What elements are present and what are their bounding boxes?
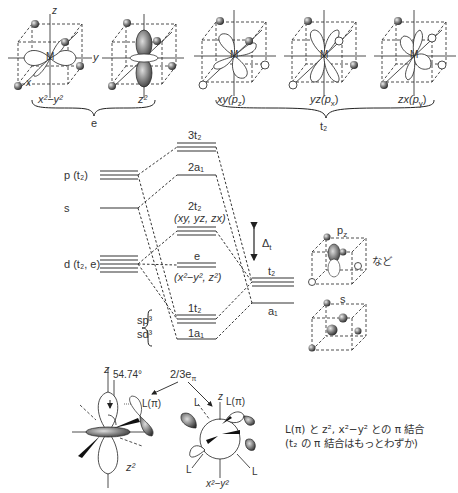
- orbital-label-yz: yz(px): [310, 94, 338, 108]
- ligand-label-bottom-right: L: [252, 467, 258, 477]
- orbital-zx-text: zx(p: [398, 93, 419, 105]
- orbital-label-x2-y2: x²−y²: [38, 94, 63, 105]
- orbital-label-z2: z²: [138, 94, 147, 105]
- bottom-orbital-z2: z²: [126, 462, 135, 473]
- note-line-2: (t₂ の π 結合はもっとわずか): [285, 438, 418, 449]
- level-label-3t2: 3t₂: [188, 130, 201, 141]
- x2-y2-pi-diagram: [190, 402, 250, 478]
- level-label-e: e: [194, 251, 200, 262]
- hybrid-label-sp3: sp³: [137, 315, 152, 326]
- diagram-artwork: [0, 0, 458, 493]
- energy-label: 2/3eπ: [170, 369, 196, 382]
- bottom-z-label-left: z: [104, 364, 110, 375]
- ligand-pi-label-right: L(π): [226, 397, 245, 407]
- ligand-pz-label: pz: [337, 225, 347, 239]
- level-label-1a1: 1a₁: [188, 328, 204, 339]
- note-line-1: L(π) と z², x²−y² との π 結合: [285, 424, 424, 435]
- level-label-ligand-t2: t₂: [268, 266, 275, 277]
- group-label-t2: t₂: [320, 121, 327, 132]
- metal-label-zx: M: [410, 50, 418, 60]
- bottom-z-label-right: z: [218, 392, 223, 402]
- level-label-2t2: 2t₂: [188, 201, 201, 212]
- level-label-p: p (t₂): [64, 170, 88, 181]
- orbital-zx-close: ): [423, 93, 427, 105]
- orbital-xy-close: ): [242, 93, 246, 105]
- energy-text: 2/3e: [170, 368, 191, 380]
- splitting-label: Δt: [262, 238, 272, 252]
- splitting-sub: t: [269, 243, 271, 252]
- axis-x-label: x: [26, 78, 31, 88]
- axis-y-label: y: [93, 52, 99, 63]
- bottom-orbital-x2-y2: x²−y²: [206, 479, 229, 489]
- orbital-label-xy: xy(pz): [217, 94, 245, 108]
- metal-label-yz: M: [320, 50, 328, 60]
- ligand-label-top: L: [194, 398, 200, 408]
- orbital-xy-text: xy(p: [217, 93, 238, 105]
- level-label-2a1: 2a₁: [188, 162, 204, 173]
- energy-sub: π: [191, 375, 196, 382]
- level-label-ligand-a1: a₁: [268, 306, 278, 317]
- ligand-s-label: s: [340, 294, 346, 305]
- angle-label: 54.74°: [113, 370, 142, 380]
- level-label-1t2: 1t₂: [188, 303, 201, 314]
- level-sublabel-e: (x²−y², z²): [174, 272, 221, 283]
- ligand-label-bottom-left: L: [186, 465, 192, 475]
- ligand-pz-sub: z: [343, 230, 347, 239]
- etc-label: など: [372, 256, 392, 267]
- cube-ligand-pz: [312, 238, 366, 284]
- ligand-pi-label-left: L(π): [142, 399, 161, 409]
- metal-label: M: [46, 52, 54, 62]
- metal-label-xy: M: [230, 50, 238, 60]
- hybrid-label-sd3: sd³: [137, 329, 152, 340]
- cube-ligand-s: [312, 304, 366, 350]
- level-label-s: s: [64, 203, 70, 214]
- axis-z-label: z: [52, 6, 57, 16]
- orbital-yz-close: ): [335, 93, 339, 105]
- orbital-label-zx: zx(py): [398, 94, 426, 108]
- group-label-e: e: [91, 118, 97, 129]
- orbital-yz-text: yz(p: [310, 93, 331, 105]
- level-label-d: d (t₂, e): [64, 259, 100, 270]
- level-sublabel-2t2: (xy, yz, zx): [174, 213, 226, 224]
